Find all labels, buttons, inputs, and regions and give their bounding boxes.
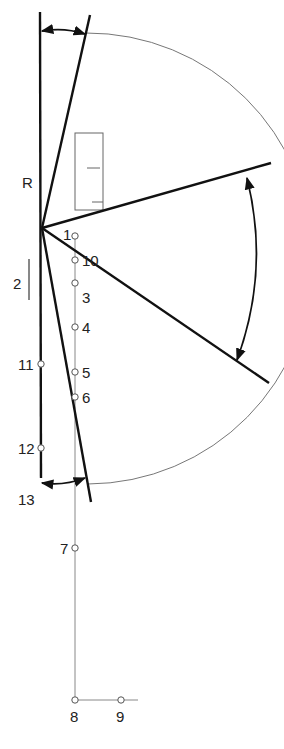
point-5 [72,369,78,375]
label-11: 11 [18,356,34,373]
label-8: 8 [70,708,78,725]
label-1: 1 [63,226,71,243]
label-9: 9 [116,708,124,725]
bottom-angle-arrow [42,478,85,484]
point-1 [72,233,78,239]
scale-box [75,133,103,210]
label-2: 2 [13,275,21,292]
point-4 [72,324,78,330]
label-R: R [22,174,33,191]
label-7: 7 [60,540,68,557]
point-3 [72,280,78,286]
label-5: 5 [82,364,90,381]
point-11 [38,361,44,367]
lower-right-ray [42,228,269,383]
upper-ray [42,15,90,228]
point-6 [72,394,78,400]
label-13: 13 [18,491,35,508]
reference-arc [86,33,284,484]
label-10: 10 [82,252,99,269]
point-8 [72,697,78,703]
label-12: 12 [18,440,35,457]
point-12 [38,445,44,451]
right-angle-arrow [237,178,256,360]
main-vertical-line [40,12,41,478]
point-9 [118,697,124,703]
label-4: 4 [82,319,90,336]
label-3: 3 [82,289,90,306]
upper-right-ray [42,163,271,228]
diagram-canvas: R 2 1 10 3 4 5 6 11 12 13 7 8 9 [0,0,284,749]
top-angle-arrow [42,30,85,34]
point-10 [72,257,78,263]
point-7 [72,545,78,551]
label-6: 6 [82,389,90,406]
